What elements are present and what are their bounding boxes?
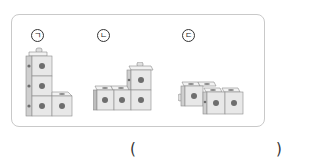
cube-figure-nieun [93, 62, 161, 118]
answer-open-paren: ( [130, 140, 136, 158]
figure-label-nieun: ㄴ [97, 29, 110, 42]
cube-figure-giyeok [24, 46, 74, 120]
answer-close-paren: ) [276, 140, 282, 158]
cube-figure-digeut [178, 80, 254, 120]
figure-label-digeut: ㄷ [182, 29, 195, 42]
answer-blank[interactable] [140, 140, 272, 158]
figure-label-giyeok: ㄱ [31, 29, 44, 42]
